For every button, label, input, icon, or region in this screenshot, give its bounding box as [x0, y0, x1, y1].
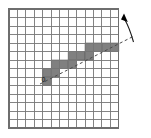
- figure-root: 0: [0, 0, 151, 138]
- figure-background: [0, 0, 151, 138]
- filled-cell: [85, 52, 93, 61]
- filled-cell: [51, 60, 59, 69]
- filled-cell: [85, 43, 93, 52]
- filled-cell: [77, 52, 85, 61]
- origin-label: 0: [42, 76, 46, 83]
- filled-cell: [60, 60, 68, 69]
- filled-cell: [94, 43, 102, 52]
- filled-cell: [68, 52, 76, 61]
- grid-diagram: 0: [0, 0, 151, 138]
